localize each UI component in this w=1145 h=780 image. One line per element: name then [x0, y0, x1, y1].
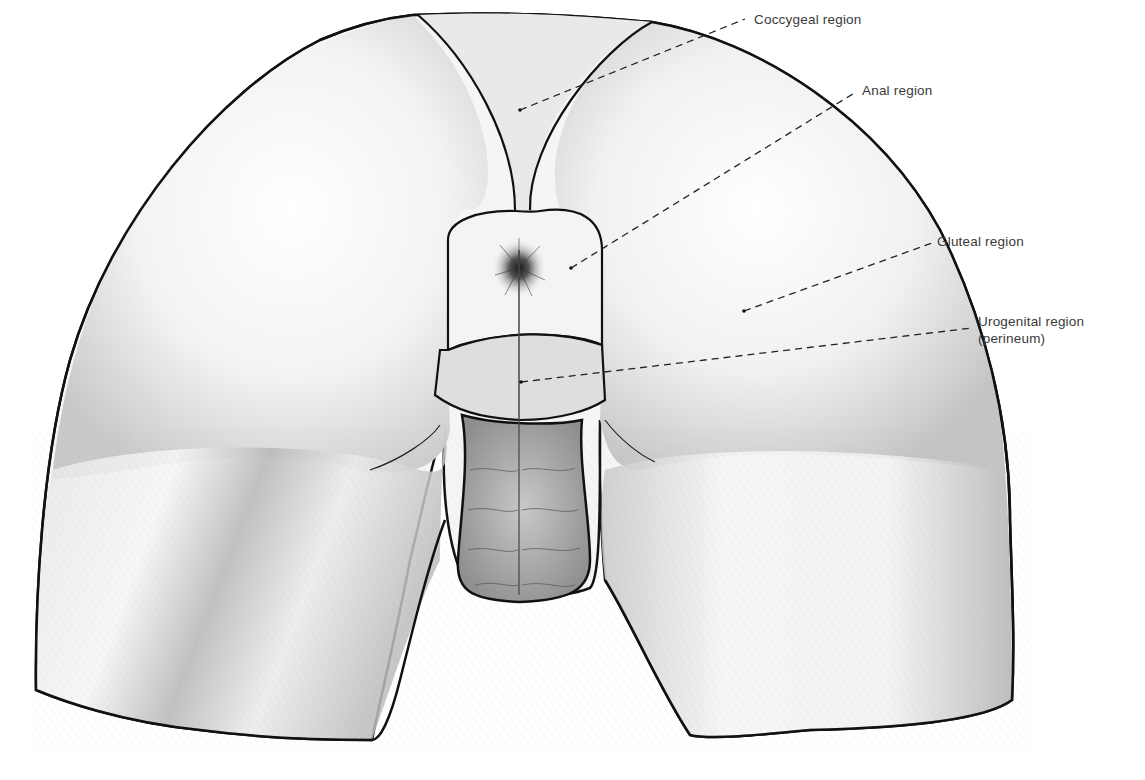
anatomy-illustration: [0, 0, 1145, 780]
label-urogenital-region-sub: (perineum): [978, 330, 1045, 347]
urogenital-region: [435, 334, 605, 420]
label-coccygeal-region: Coccygeal region: [754, 11, 862, 28]
label-gluteal-region: Gluteal region: [937, 233, 1024, 250]
label-urogenital-region: Urogenital region: [978, 313, 1084, 330]
label-anal-region: Anal region: [862, 82, 933, 99]
